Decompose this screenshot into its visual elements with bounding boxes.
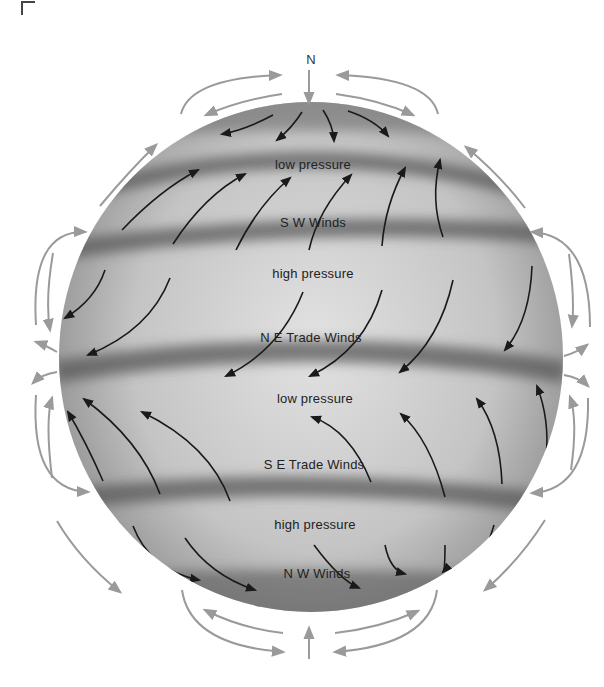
wind-belts-diagram: N low pressure S W Winds high pressure N… xyxy=(0,0,604,687)
belt-label-ne-trade-winds: N E Trade Winds xyxy=(260,330,361,345)
belt-label-sw-winds: S W Winds xyxy=(280,215,346,230)
belt-label-polar-low-north: low pressure xyxy=(275,157,351,172)
belt-label-subtropical-high-north: high pressure xyxy=(272,266,353,281)
belt-label-subtropical-high-south: high pressure xyxy=(274,517,355,532)
belt-label-equatorial-low: low pressure xyxy=(277,391,353,406)
north-label: N xyxy=(306,52,315,67)
belt-label-nw-winds: N W Winds xyxy=(284,566,351,581)
belt-label-se-trade-winds: S E Trade Winds xyxy=(264,457,365,472)
